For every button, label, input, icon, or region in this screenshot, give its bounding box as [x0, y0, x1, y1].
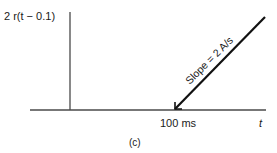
ramp-line [175, 17, 265, 109]
x-axis-label: t [259, 118, 262, 129]
figure-caption: (c) [129, 138, 141, 148]
tick-label-100ms: 100 ms [160, 118, 196, 129]
diagram-canvas [0, 0, 277, 153]
y-axis-label: 2 r(t − 0.1) [4, 11, 55, 22]
